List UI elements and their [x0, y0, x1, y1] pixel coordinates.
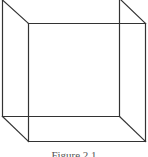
bottom-left-diagonal: [3, 117, 29, 142]
bottom-right-diagonal: [120, 117, 146, 142]
top-right-diagonal: [121, 0, 146, 24]
cube-figure: Figure 2.1: [0, 0, 148, 157]
figure-caption: Figure 2.1: [0, 149, 148, 157]
top-left-diagonal: [3, 0, 29, 24]
cube-wireframe: [0, 0, 148, 145]
